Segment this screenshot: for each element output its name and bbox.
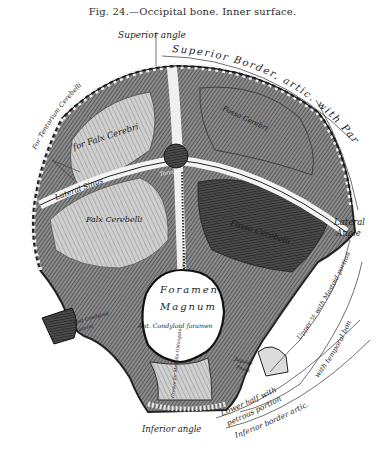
left-condyle xyxy=(42,308,77,344)
label-crista: Crista xyxy=(181,252,188,268)
torcular-herophili xyxy=(164,144,188,168)
occipital-bone-figure: Superior angle Superior Border, artic. w… xyxy=(0,0,385,450)
label-foramen: Foramen xyxy=(159,284,219,295)
label-ant-condyloid: Ant. Condyloid foramen xyxy=(137,322,213,330)
label-lateral-angle-2: Angle xyxy=(335,228,361,238)
label-superior-angle: Superior angle xyxy=(118,30,186,40)
label-magnum: Magnum xyxy=(159,301,217,312)
label-lateral-angle-1: Lateral xyxy=(333,217,365,227)
basilar-groove xyxy=(150,358,212,400)
label-falx-cerebelli: Falx Cerebelli xyxy=(85,215,143,224)
label-inferior-angle: Inferior angle xyxy=(141,424,201,434)
jugular-process xyxy=(258,347,288,376)
